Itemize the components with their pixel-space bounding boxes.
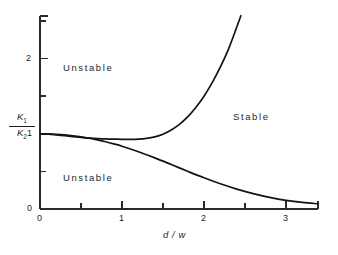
- x-tick-label-2: 2: [201, 213, 206, 223]
- y-axis-label-denominator: K2: [9, 127, 35, 141]
- x-tick-label-0: 0: [37, 213, 42, 223]
- curve-upper-boundary: [40, 16, 241, 140]
- x-axis-label: d / w: [163, 229, 186, 240]
- figure-container: 2 1 0 0 1 2 3 d / w K1 K2 Unstable Unsta…: [0, 0, 338, 255]
- region-label-unstable-lower: Unstable: [63, 172, 113, 183]
- y-tick-label-0: 0: [27, 203, 32, 213]
- y-axis-label-numerator-subscript: 1: [23, 117, 27, 124]
- y-axis-label: K1 K2: [9, 112, 35, 140]
- curve-lower-boundary: [40, 134, 318, 204]
- region-label-unstable-upper: Unstable: [63, 62, 113, 73]
- x-tick-label-3: 3: [283, 213, 288, 223]
- y-axis-label-numerator: K1: [9, 112, 35, 127]
- y-tick-label-2: 2: [26, 53, 31, 63]
- x-tick-label-1: 1: [119, 213, 124, 223]
- region-label-stable: Stable: [233, 111, 270, 122]
- y-axis-label-denominator-subscript: 2: [23, 133, 27, 140]
